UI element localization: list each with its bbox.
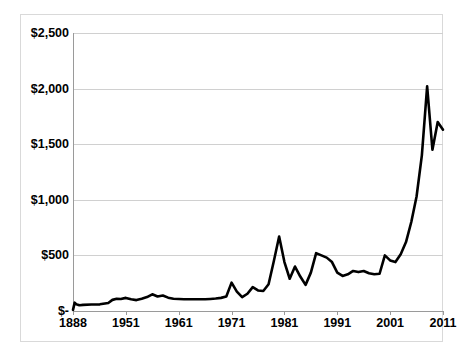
x-tick-label-1991: 1991 — [323, 317, 351, 330]
x-tick-mark-2001 — [390, 311, 391, 315]
y-tick-label-2500: $2,500 — [31, 27, 69, 40]
plot-area — [73, 33, 443, 311]
x-tick-mark-1961 — [179, 311, 180, 315]
x-tick-label-1951: 1951 — [112, 317, 140, 330]
x-tick-label-1971: 1971 — [218, 317, 246, 330]
x-tick-mark-1951 — [126, 311, 127, 315]
y-tick-label-500: $500 — [41, 249, 69, 262]
x-tick-mark-1971 — [232, 311, 233, 315]
x-tick-mark-1991 — [337, 311, 338, 315]
x-tick-label-1961: 1961 — [165, 317, 193, 330]
x-tick-label-2011: 2011 — [429, 317, 456, 330]
x-tick-label-1888: 1888 — [59, 317, 87, 330]
y-tick-label-1500: $1,500 — [31, 138, 69, 151]
x-tick-mark-1981 — [284, 311, 285, 315]
y-axis-label-group: $-$500$1,000$1,500$2,000$2,500 — [18, 0, 69, 355]
price-polyline — [73, 86, 443, 310]
y-tick-label-2000: $2,000 — [31, 83, 69, 96]
y-tick-label-1000: $1,000 — [31, 194, 69, 207]
x-tick-label-1981: 1981 — [271, 317, 299, 330]
price-series-line — [73, 33, 443, 311]
x-tick-mark-1888 — [73, 311, 74, 315]
x-axis-line — [73, 311, 443, 312]
x-tick-label-2001: 2001 — [376, 317, 404, 330]
x-tick-mark-2011 — [443, 311, 444, 315]
chart-container: $-$500$1,000$1,500$2,000$2,500 188819511… — [0, 0, 466, 355]
